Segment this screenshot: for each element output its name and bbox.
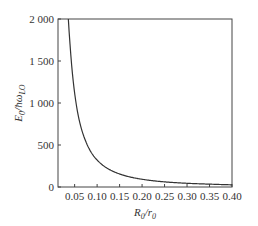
x-tick-label: 0.05 [65,190,85,202]
y-tick-label: 1 500 [29,55,54,67]
line-chart: 0.050.100.150.200.250.300.350.40 05001 0… [0,0,258,226]
y-axis-label: E0/ħωLO [12,84,27,123]
x-tick-label: 0.15 [110,190,130,202]
x-tick-label: 0.25 [155,190,175,202]
x-tick-label: 0.30 [177,190,197,202]
x-tick-label: 0.35 [200,190,220,202]
x-tick-label: 0.10 [87,190,107,202]
y-axis-ticks: 05001 0001 5002 000 [29,13,61,193]
x-tick-label: 0.40 [222,190,242,202]
y-tick-label: 2 000 [29,13,54,25]
y-tick-label: 1 000 [29,97,54,109]
y-tick-label: 0 [49,181,55,193]
x-axis-label: R0/r0 [133,206,156,221]
x-tick-label: 0.20 [132,190,152,202]
plot-frame [58,19,232,187]
energy-curve [68,19,232,185]
y-tick-label: 500 [38,139,55,151]
